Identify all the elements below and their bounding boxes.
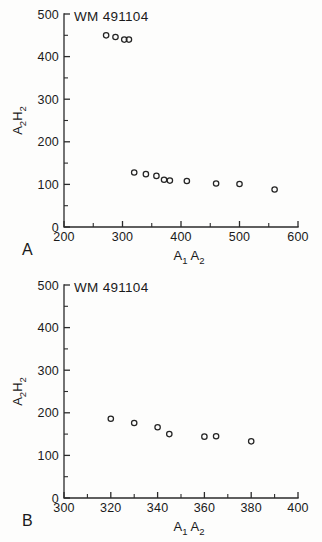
y-axis-tick-label: 200 xyxy=(38,406,59,420)
axis-lines xyxy=(64,285,298,498)
y-axis-title-h: H xyxy=(10,111,25,120)
y-axis-title-a: A xyxy=(10,126,25,135)
data-point xyxy=(184,178,189,183)
x-axis-tick-label: 500 xyxy=(229,230,250,244)
figure-page: 0100200300400500200300400500600WM 491104… xyxy=(0,0,322,542)
data-point xyxy=(154,173,159,178)
x-axis-title-sub2: 2 xyxy=(199,255,204,266)
data-point xyxy=(155,425,160,430)
x-axis-tick-label: 600 xyxy=(287,230,308,244)
y-axis-tick-label: 200 xyxy=(38,135,59,149)
data-point-group xyxy=(108,416,254,444)
data-point xyxy=(237,181,242,186)
data-point xyxy=(213,434,218,439)
scatter-plot-b: 0100200300400500300320340360380400WM 491… xyxy=(0,271,322,542)
x-axis-tick-label: 300 xyxy=(112,230,133,244)
x-axis-title: A1 A2 xyxy=(174,519,205,537)
y-axis-tick-label: 500 xyxy=(38,8,59,22)
x-axis-title-a1: A xyxy=(174,519,183,534)
panel-label: B xyxy=(22,512,33,529)
y-axis-tick-label: 300 xyxy=(38,93,59,107)
y-axis-title-h: H xyxy=(10,382,25,391)
x-axis-title-a2: A xyxy=(188,248,200,263)
data-point xyxy=(113,34,118,39)
data-point xyxy=(167,178,172,183)
data-point xyxy=(132,420,137,425)
y-axis-tick-label: 400 xyxy=(38,321,59,335)
x-axis-tick-label: 200 xyxy=(53,230,74,244)
y-axis-title-sub2: 2 xyxy=(17,377,28,382)
x-axis-tick-label: 380 xyxy=(240,501,261,515)
data-point-group xyxy=(103,33,277,193)
data-point xyxy=(213,181,218,186)
y-axis-tick-label: 300 xyxy=(38,364,59,378)
data-point xyxy=(167,431,172,436)
chart-panel-b: 0100200300400500300320340360380400WM 491… xyxy=(0,271,322,542)
y-axis-title-sub2: 2 xyxy=(17,106,28,111)
chart-title: WM 491104 xyxy=(74,9,149,24)
y-axis-tick-label: 500 xyxy=(38,279,59,293)
y-axis-tick-label: 100 xyxy=(38,449,59,463)
x-axis-title: A1 A2 xyxy=(174,248,205,266)
x-axis-tick-label: 360 xyxy=(194,501,215,515)
y-axis-tick-label: 100 xyxy=(38,178,59,192)
x-axis-title-a1: A xyxy=(174,248,183,263)
y-axis-tick-label: 400 xyxy=(38,50,59,64)
x-axis-tick-label: 400 xyxy=(170,230,191,244)
data-point xyxy=(161,177,166,182)
x-axis-title-a2: A xyxy=(188,519,200,534)
panel-label: A xyxy=(22,241,33,258)
x-axis-tick-label: 340 xyxy=(147,501,168,515)
x-axis-tick-label: 320 xyxy=(100,501,121,515)
data-point xyxy=(249,439,254,444)
scatter-plot-a: 0100200300400500200300400500600WM 491104… xyxy=(0,0,322,271)
data-point xyxy=(108,416,113,421)
x-axis-tick-label: 400 xyxy=(287,501,308,515)
data-point xyxy=(202,434,207,439)
x-axis-tick-label: 300 xyxy=(53,501,74,515)
y-axis-title-a: A xyxy=(10,397,25,406)
chart-panel-a: 0100200300400500200300400500600WM 491104… xyxy=(0,0,322,271)
data-point xyxy=(132,170,137,175)
y-axis-title: A2H2 xyxy=(10,106,28,135)
axis-lines xyxy=(64,14,298,227)
data-point xyxy=(143,171,148,176)
data-point xyxy=(272,187,277,192)
x-axis-title-sub2: 2 xyxy=(199,526,204,537)
data-point xyxy=(103,33,108,38)
chart-title: WM 491104 xyxy=(74,280,149,295)
y-axis-title: A2H2 xyxy=(10,377,28,406)
